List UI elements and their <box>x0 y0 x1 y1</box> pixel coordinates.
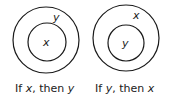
caption-prefix: If <box>95 82 106 95</box>
caption: If x, then y <box>15 82 75 95</box>
caption-mid: , then <box>112 82 148 95</box>
caption: If y, then x <box>95 82 155 95</box>
caption-consequent: y <box>67 82 75 95</box>
inner-label: y <box>121 37 129 50</box>
outer-label: x <box>132 9 140 22</box>
inner-label: x <box>42 36 50 49</box>
euler-diagrams: y x If x, then y x y If y, then x <box>0 0 170 97</box>
diagram-if-x-then-y: y x If x, then y <box>13 7 79 95</box>
caption-mid: , then <box>32 82 68 95</box>
outer-label: y <box>52 11 60 24</box>
diagram-if-y-then-x: x y If y, then x <box>93 5 159 95</box>
caption-prefix: If <box>15 82 26 95</box>
caption-consequent: x <box>147 82 155 95</box>
